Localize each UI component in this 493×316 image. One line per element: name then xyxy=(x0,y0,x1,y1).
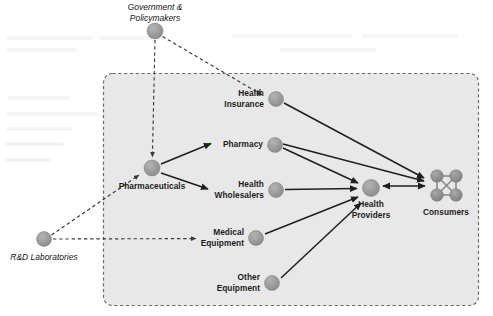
node-pharmaceuticals[interactable] xyxy=(144,160,160,176)
diagram-svg xyxy=(0,0,493,316)
node-health-insurance[interactable] xyxy=(269,92,284,107)
node-health-providers[interactable] xyxy=(363,180,380,197)
node-rnd-laboratories[interactable] xyxy=(37,232,52,247)
node-medical-equipment[interactable] xyxy=(249,231,264,246)
node-pharmacy[interactable] xyxy=(268,138,283,153)
node-health-wholesalers[interactable] xyxy=(269,183,284,198)
diagram-canvas: Government & Policymakers R&D Laboratori… xyxy=(0,0,493,316)
node-government[interactable] xyxy=(147,23,163,39)
edge-health-wholesalers-to-health-providers xyxy=(285,189,357,190)
node-other-equipment[interactable] xyxy=(265,276,280,291)
